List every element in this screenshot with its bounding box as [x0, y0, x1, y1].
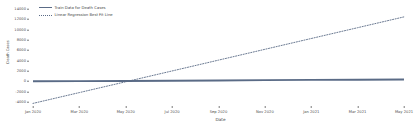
y-tick-label: -2000 — [15, 90, 26, 94]
legend-item-train-data: Train Data for Death Cases — [39, 5, 113, 10]
y-tick-mark — [27, 81, 29, 82]
x-tick-label: Nov 2020 — [256, 110, 274, 114]
x-tick-mark — [311, 106, 312, 108]
x-tick-label: Jul 2020 — [165, 110, 180, 114]
y-axis-label: Death Cases — [6, 32, 10, 72]
x-tick-label: May 2021 — [395, 110, 413, 114]
x-tick-label: Mar 2020 — [71, 110, 89, 114]
y-tick-mark — [27, 60, 29, 61]
x-tick-label: Sep 2020 — [210, 110, 228, 114]
y-tick-label: 4000 — [17, 59, 26, 63]
y-tick-mark — [27, 102, 29, 103]
x-tick-label: Jan 2020 — [25, 110, 41, 114]
x-tick-mark — [404, 106, 405, 108]
y-tick-mark — [27, 40, 29, 41]
legend-dotted-line-icon — [39, 13, 52, 17]
legend-item-regression-line: Linear Regression Best Fit Line — [39, 13, 113, 18]
series-train-data — [33, 80, 404, 82]
x-tick-label: May 2020 — [117, 110, 135, 114]
x-tick-label: Mar 2021 — [349, 110, 367, 114]
x-tick-mark — [265, 106, 266, 108]
x-tick-mark — [172, 106, 173, 108]
series-lines — [31, 4, 410, 107]
y-tick-label: 14000 — [14, 7, 26, 11]
plot-area — [31, 4, 410, 107]
series-regression-line — [33, 17, 404, 104]
y-axis-ticks: 14000120001000080006000400020000-2000-40… — [0, 4, 29, 107]
y-tick-label: 0 — [24, 79, 26, 83]
y-tick-label: -4000 — [15, 100, 26, 104]
y-tick-label: 8000 — [17, 38, 26, 42]
chart-figure: 14000120001000080006000400020000-2000-40… — [0, 0, 417, 128]
y-tick-mark — [27, 9, 29, 10]
legend-solid-line-icon — [39, 6, 52, 10]
y-tick-mark — [27, 50, 29, 51]
x-tick-mark — [33, 106, 34, 108]
y-tick-mark — [27, 19, 29, 20]
x-tick-label: Jan 2021 — [303, 110, 319, 114]
x-tick-mark — [218, 106, 219, 108]
chart-legend: Train Data for Death Cases Linear Regres… — [39, 5, 113, 18]
y-tick-mark — [27, 91, 29, 92]
y-tick-label: 6000 — [17, 48, 26, 52]
y-tick-mark — [27, 71, 29, 72]
x-tick-mark — [79, 106, 80, 108]
y-tick-label: 12000 — [14, 17, 26, 21]
x-axis-label: Date — [31, 117, 410, 122]
y-tick-label: 2000 — [17, 69, 26, 73]
legend-label: Train Data for Death Cases — [55, 6, 106, 10]
y-tick-mark — [27, 29, 29, 30]
y-tick-label: 10000 — [14, 28, 26, 32]
legend-label: Linear Regression Best Fit Line — [55, 13, 113, 17]
x-tick-mark — [357, 106, 358, 108]
x-tick-mark — [125, 106, 126, 108]
